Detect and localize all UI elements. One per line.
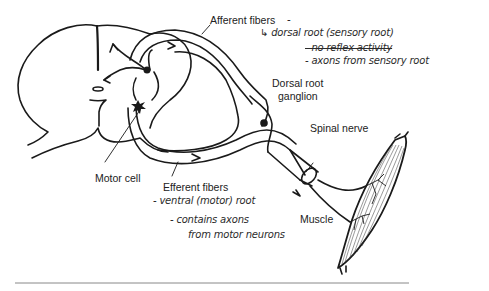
- note-no-reflex: - no reflex activity: [305, 42, 392, 53]
- spinal-reflex-diagram: [0, 0, 489, 291]
- label-dorsal-root-ganglion-2: ganglion: [278, 90, 318, 102]
- motor-cell-star: [131, 100, 146, 114]
- label-muscle: Muscle: [300, 213, 333, 225]
- note-dorsal-root: ↳ dorsal root (sensory root): [260, 27, 394, 38]
- afferent-fiber-outer: [130, 30, 268, 126]
- note-from-motor-neurons: from motor neurons: [188, 229, 285, 240]
- muscle: [338, 136, 406, 268]
- note-afferent-dash: -: [287, 14, 290, 25]
- label-efferent-fibers: Efferent fibers: [163, 181, 228, 193]
- label-motor-cell: Motor cell: [95, 172, 141, 184]
- note-axons-from-sensory: - axons from sensory root: [305, 55, 429, 66]
- note-ventral-root: - ventral (motor) root: [153, 195, 255, 206]
- label-dorsal-root-ganglion-1: Dorsal root: [272, 77, 323, 89]
- label-afferent-fibers: Afferent fibers: [210, 14, 275, 26]
- note-contains-axons: - contains axons: [170, 214, 249, 225]
- label-spinal-nerve: Spinal nerve: [310, 122, 368, 134]
